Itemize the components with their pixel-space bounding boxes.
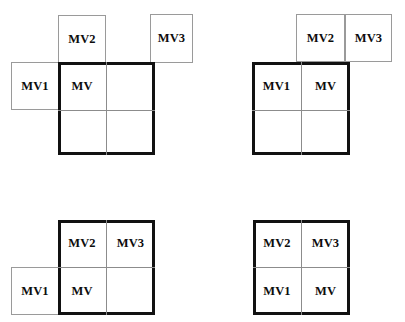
- cell-label-mv2: MV2: [307, 32, 334, 45]
- cell-label-mv1: MV1: [21, 285, 48, 298]
- cell-label-mv1: MV1: [263, 285, 290, 298]
- cell-label-mv1: MV1: [21, 80, 48, 93]
- grid-divider-horizontal: [58, 267, 155, 268]
- grid-divider-vertical: [301, 62, 302, 155]
- cell-label-mv: MV: [315, 285, 336, 298]
- satellite-box-mv1: MV1: [11, 267, 59, 315]
- panel-stage-2: MV2 MV3 MV1 MV: [203, 0, 405, 161]
- grid-divider-horizontal: [253, 267, 350, 268]
- cell-label-mv2: MV2: [68, 33, 95, 46]
- cell-label-mv2: MV2: [68, 237, 95, 250]
- grid-cell-mv: MV: [58, 62, 106, 110]
- satellite-box-mv3: MV3: [345, 14, 392, 62]
- satellite-box-mv2: MV2: [58, 15, 106, 63]
- panel-stage-1: MV2 MV3 MV1 MV: [0, 0, 203, 161]
- diagram-canvas: MV2 MV3 MV1 MV MV2 MV3 MV1: [0, 0, 405, 322]
- cell-label-mv: MV: [71, 285, 92, 298]
- cell-label-mv: MV: [71, 80, 92, 93]
- satellite-box-mv1: MV1: [11, 62, 59, 110]
- panel-stage-3: MV1 MV2 MV3 MV: [0, 161, 203, 322]
- cell-label-mv2: MV2: [263, 237, 290, 250]
- satellite-box-mv3: MV3: [150, 14, 193, 63]
- grid-cell-mv1: MV1: [252, 62, 301, 110]
- cell-label-mv3: MV3: [158, 32, 185, 45]
- grid-divider-horizontal: [58, 110, 155, 111]
- grid-cell-mv2: MV2: [58, 220, 106, 267]
- cell-label-mv: MV: [315, 80, 336, 93]
- cell-label-mv3: MV3: [117, 237, 144, 250]
- grid-cell-mv: MV: [301, 267, 350, 315]
- cell-label-mv3: MV3: [355, 32, 382, 45]
- cell-label-mv1: MV1: [263, 80, 290, 93]
- grid-divider-horizontal: [252, 110, 350, 111]
- grid-cell-mv2: MV2: [253, 220, 301, 267]
- satellite-box-mv2: MV2: [296, 14, 345, 62]
- grid-cell-mv: MV: [301, 62, 350, 110]
- cell-label-mv3: MV3: [312, 237, 339, 250]
- grid-cell-mv: MV: [58, 267, 106, 315]
- grid-cell-mv1: MV1: [253, 267, 301, 315]
- grid-cell-mv3: MV3: [301, 220, 350, 267]
- panel-stage-4: MV2 MV3 MV1 MV: [203, 161, 405, 322]
- grid-divider-vertical: [106, 62, 107, 155]
- grid-cell-mv3: MV3: [106, 220, 155, 267]
